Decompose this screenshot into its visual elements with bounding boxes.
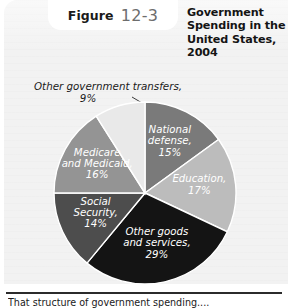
- figure-label: Figure: [68, 8, 114, 23]
- figure-number-badge: Figure 12-3: [48, 0, 178, 30]
- figure-title: Government Spending in the United States…: [187, 6, 288, 60]
- figure-title-line-1: Government: [187, 6, 288, 19]
- figure-title-line-4: 2004: [187, 46, 288, 59]
- figure-number: 12-3: [121, 6, 159, 25]
- figure-caption: That structure of government spending...…: [8, 297, 282, 308]
- figure-bottom-rule: [6, 292, 282, 294]
- figure-panel: Figure 12-3 Government Spending in the U…: [4, 0, 288, 284]
- figure-title-line-2: Spending in the: [187, 19, 288, 32]
- callout-text: Other government transfers,: [34, 80, 182, 92]
- figure-title-line-3: United States,: [187, 33, 288, 46]
- pie-chart-svg: Nationaldefense,15%Education,17%Other go…: [53, 101, 237, 284]
- pie-chart: Nationaldefense,15%Education,17%Other go…: [53, 101, 237, 284]
